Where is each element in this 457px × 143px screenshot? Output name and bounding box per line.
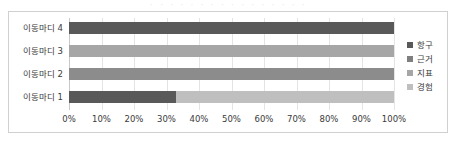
category-label: 이동마디 3 — [23, 45, 63, 57]
x-tick-label: 100% — [382, 112, 406, 126]
category-label: 이동마디 2 — [23, 68, 63, 80]
x-tick-label: 0% — [62, 112, 76, 126]
chart-frame: 이동마디 4이동마디 3이동마디 2이동마디 1 0%10%20%30%40%5… — [8, 11, 448, 133]
x-tick-label: 60% — [255, 112, 274, 126]
x-tick-label: 40% — [190, 112, 209, 126]
x-tick-label: 50% — [222, 112, 241, 126]
chart-legend: 항구근거지표경험 — [407, 38, 447, 94]
x-tick-label: 80% — [320, 112, 339, 126]
category-label: 이동마디 4 — [23, 22, 63, 34]
legend-swatch-icon — [407, 42, 413, 48]
bar-segment-근거[interactable] — [69, 68, 394, 80]
gridline-100 — [394, 18, 395, 110]
legend-label: 경험 — [417, 80, 433, 94]
clipped-caption-remnant: · · · · · · · · · · · · · · · · — [0, 0, 457, 10]
chart-screenshot: · · · · · · · · · · · · · · · · 이동마디 4이동… — [0, 0, 457, 143]
plot-area — [69, 18, 394, 110]
legend-item[interactable]: 항구 — [407, 38, 447, 52]
x-tick-label: 30% — [157, 112, 176, 126]
bar-segment-항구[interactable] — [69, 91, 176, 103]
legend-swatch-icon — [407, 56, 413, 62]
x-tick-label: 70% — [287, 112, 306, 126]
x-tick-label: 20% — [125, 112, 144, 126]
category-label: 이동마디 1 — [23, 91, 63, 103]
bar-row[interactable] — [69, 22, 394, 34]
bar-row[interactable] — [69, 68, 394, 80]
bar-row[interactable] — [69, 45, 394, 57]
bar-segment-항구[interactable] — [69, 22, 394, 34]
legend-swatch-icon — [407, 70, 413, 76]
x-tick-label: 90% — [352, 112, 371, 126]
bar-row[interactable] — [69, 91, 394, 103]
category-axis-labels: 이동마디 4이동마디 3이동마디 2이동마디 1 — [9, 18, 67, 110]
bar-segment-경험[interactable] — [176, 91, 394, 103]
legend-item[interactable]: 경험 — [407, 80, 447, 94]
bar-series-group — [69, 18, 394, 110]
bar-segment-지표[interactable] — [69, 45, 394, 57]
x-axis-tick-labels: 0%10%20%30%40%50%60%70%80%90%100% — [69, 112, 394, 126]
legend-label: 항구 — [417, 38, 433, 52]
legend-label: 지표 — [417, 66, 433, 80]
legend-item[interactable]: 지표 — [407, 66, 447, 80]
x-tick-label: 10% — [92, 112, 111, 126]
legend-item[interactable]: 근거 — [407, 52, 447, 66]
legend-label: 근거 — [417, 52, 433, 66]
legend-swatch-icon — [407, 84, 413, 90]
